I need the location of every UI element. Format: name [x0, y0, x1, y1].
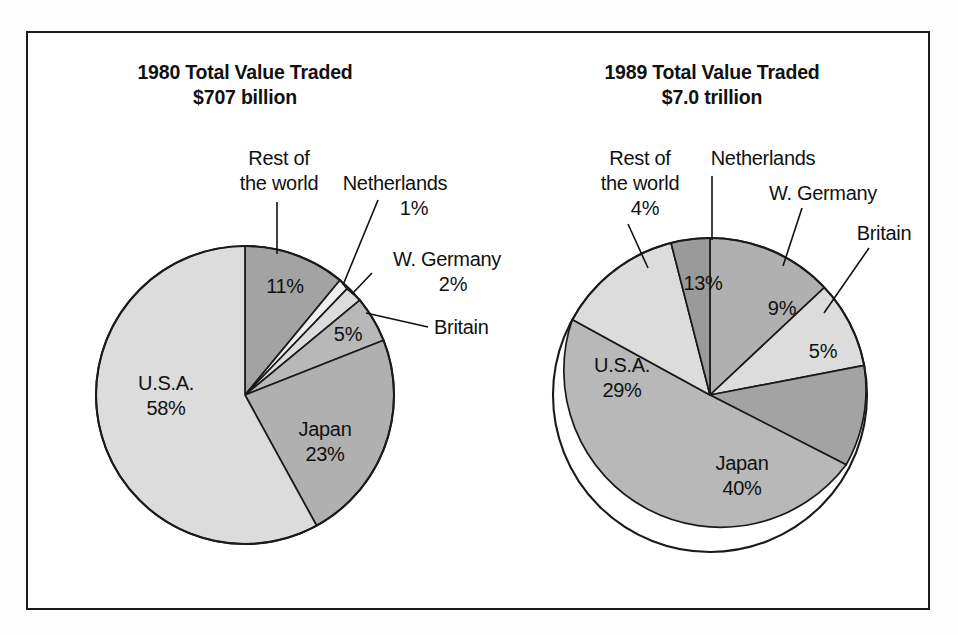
label-1980-japan-pct: 23%	[305, 443, 345, 465]
label-1980-usa-name: U.S.A.	[138, 372, 194, 394]
label-1989-usa-name: U.S.A.	[594, 354, 650, 376]
label-1980-usa-pct: 58%	[146, 397, 186, 419]
leader-1980-germany	[352, 273, 372, 294]
callout-1989-rest-line2: the world	[601, 172, 679, 194]
callout-1989-britain: Britain	[857, 222, 912, 244]
callout-1980-germany-line1: W. Germany	[393, 248, 501, 270]
leader-1989-britain	[824, 248, 869, 313]
label-1980-japan-name: Japan	[299, 418, 352, 440]
label-1989-usa-pct: 29%	[602, 379, 642, 401]
callout-1989-germany: W. Germany	[769, 182, 877, 204]
chart-1980-pie	[96, 246, 394, 544]
label-1989-germany-pct: 9%	[768, 297, 797, 319]
chart-1989-title-line2: $7.0 trillion	[662, 86, 762, 108]
callout-1980-germany-line2: 2%	[439, 273, 468, 295]
label-1989-japan-name: Japan	[716, 452, 769, 474]
pie-charts-svg: 1980 Total Value Traded $707 billion Res…	[0, 0, 958, 635]
label-1989-britain-pct: 5%	[809, 340, 838, 362]
callout-1989-rest-line3: 4%	[631, 197, 660, 219]
label-1980-rest-pct: 11%	[266, 275, 304, 297]
chart-1980-title-line1: 1980 Total Value Traded	[137, 61, 352, 83]
figure-root: 1980 Total Value Traded $707 billion Res…	[0, 0, 958, 635]
callout-1980-rest-line2: the world	[240, 172, 318, 194]
callout-1989-netherlands: Netherlands	[711, 147, 816, 169]
leader-1980-netherlands	[343, 200, 378, 285]
chart-1980-title-line2: $707 billion	[193, 86, 297, 108]
callout-1980-britain: Britain	[434, 316, 489, 338]
label-1980-britain-pct: 5%	[334, 323, 363, 345]
leader-1989-germany	[783, 208, 802, 266]
chart-1989: 1989 Total Value Traded $7.0 trillion Re…	[553, 61, 911, 552]
chart-1980: 1980 Total Value Traded $707 billion Res…	[96, 61, 501, 544]
label-1989-japan-pct: 40%	[722, 477, 762, 499]
callout-1980-netherlands-line2: 1%	[400, 197, 429, 219]
callout-1989-rest-line1: Rest of	[609, 147, 671, 169]
chart-1989-title-line1: 1989 Total Value Traded	[604, 61, 819, 83]
callout-1980-rest-line1: Rest of	[248, 147, 310, 169]
label-1989-netherlands-pct: 13%	[683, 272, 723, 294]
callout-1980-netherlands-line1: Netherlands	[343, 172, 448, 194]
